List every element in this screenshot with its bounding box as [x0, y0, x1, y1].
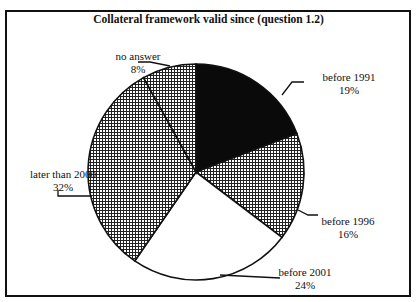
- slice-label: before 1996: [322, 215, 375, 227]
- leader-line: [282, 82, 304, 95]
- slice-percent-label: 16%: [338, 228, 358, 240]
- slice-percent-label: 32%: [53, 181, 73, 193]
- slice-label: before 2001: [279, 266, 332, 278]
- slice-percent-label: 8%: [131, 63, 146, 75]
- slice-percent-label: 19%: [339, 84, 359, 96]
- slice-label: later than 2000: [30, 168, 96, 180]
- slice-label: no answer: [116, 50, 161, 62]
- slice-percent-label: 24%: [295, 279, 315, 291]
- pie-chart: before 199119%before 199616%before 20012…: [0, 0, 417, 302]
- slice-label: before 1991: [323, 71, 376, 83]
- leader-line: [220, 275, 280, 278]
- leader-line: [298, 210, 318, 215]
